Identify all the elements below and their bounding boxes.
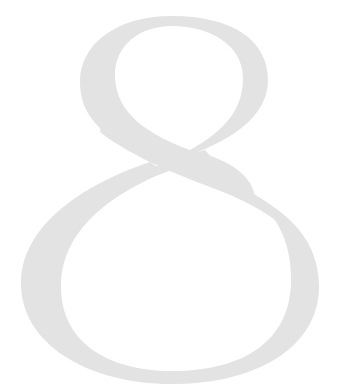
chapter-numeral-graphic bbox=[0, 0, 339, 389]
chapter-opener-page: 8 bbox=[0, 0, 339, 389]
chapter-number: 8 bbox=[0, 0, 1, 1]
